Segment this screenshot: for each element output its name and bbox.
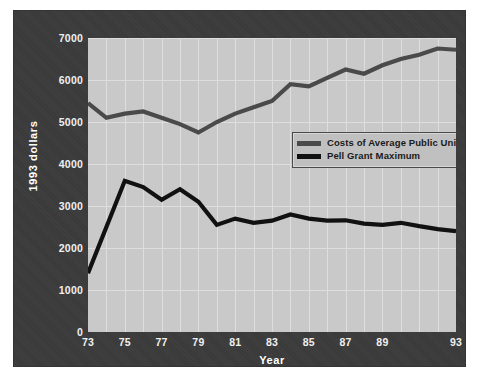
legend-item: Pell Grant Maximum [297, 150, 456, 162]
x-tick-label: 77 [156, 336, 168, 348]
x-tick-label: 81 [229, 336, 241, 348]
x-tick-label: 89 [376, 336, 388, 348]
y-tick-label: 5000 [59, 117, 83, 128]
y-tick-label: 3000 [59, 201, 83, 212]
x-tick-label: 83 [266, 336, 278, 348]
legend-label-costs-of-average-public-university: Costs of Average Public University [327, 138, 456, 148]
chart-legend: Costs of Average Public University Pell … [292, 132, 456, 168]
plot-area: Costs of Average Public University Pell … [88, 38, 456, 332]
x-tick-label: 79 [192, 336, 204, 348]
x-axis-tick-labels: 73757779818385878993 [88, 336, 456, 352]
y-tick-label: 1000 [59, 285, 83, 296]
series-line-pell-grant-maximum [88, 181, 456, 273]
x-tick-label: 75 [119, 336, 131, 348]
x-tick-label: 85 [303, 336, 315, 348]
chart-panel-background: 1993 dollars Year 7000600050004000300020… [13, 10, 466, 367]
series-line-costs-of-average-public-university [88, 49, 456, 133]
y-axis-tick-labels: 70006000500040003000200010000 [41, 38, 83, 332]
y-tick-label: 6000 [59, 75, 83, 86]
y-tick-label: 7000 [59, 33, 83, 44]
y-axis-title: 1993 dollars [27, 96, 39, 216]
legend-label-pell-grant-maximum: Pell Grant Maximum [327, 151, 420, 161]
legend-item: Costs of Average Public University [297, 137, 456, 149]
x-tick-label: 87 [340, 336, 352, 348]
legend-swatch-pell-grant-maximum [297, 154, 321, 159]
chart-figure: 1993 dollars Year 7000600050004000300020… [0, 0, 479, 380]
y-tick-label: 4000 [59, 159, 83, 170]
y-tick-label: 2000 [59, 243, 83, 254]
x-axis-title: Year [88, 354, 456, 366]
x-tick-label: 93 [450, 336, 462, 348]
data-series-layer [88, 38, 456, 332]
legend-swatch-costs-of-average-public-university [297, 141, 321, 146]
x-tick-label: 73 [82, 336, 94, 348]
